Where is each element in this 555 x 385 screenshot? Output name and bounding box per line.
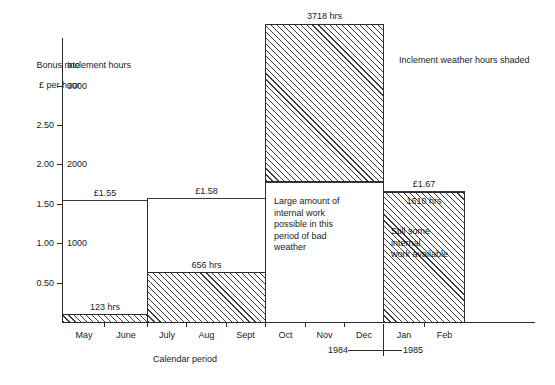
bar-july-sept-hours-label: 656 hrs (147, 260, 266, 271)
annotation-line-4: period of bad (274, 231, 340, 243)
y-tick-label-250: 2.50 (8, 120, 54, 131)
annotation-line-3: work available (391, 249, 448, 261)
x-label-jan: Jan (384, 330, 424, 341)
bonus-rate-inclement-hours-chart: Bonus rate £ per hour Inclement hours 2.… (0, 0, 555, 385)
bar-oct-dec-rate-line (265, 182, 384, 183)
annotation-line-1: Still some (391, 226, 448, 238)
y-tick-250 (57, 125, 62, 126)
legend-note: Inclement weather hours shaded (399, 55, 530, 66)
bar-may-june-hours-hatch (62, 314, 148, 323)
x-label-may: May (63, 330, 105, 341)
bar-july-sept-rate-label: £1.58 (147, 186, 266, 197)
x-label-sept: Sept (226, 330, 265, 341)
y-tick-label-050: 0.50 (8, 278, 54, 289)
bar-july-sept-hours-hatch (147, 272, 266, 323)
y-tick-300 (57, 86, 62, 87)
x-axis-title: Calendar period (105, 354, 265, 365)
annotation-line-1: Large amount of (274, 196, 340, 208)
bar-july-sept-rate-line (147, 198, 266, 199)
y-tick-label-3000: 3000 (67, 81, 87, 92)
x-label-aug: Aug (187, 330, 226, 341)
bar-may-june-hours-label: 123 hrs (62, 302, 148, 313)
annotation-line-2: internal work (274, 208, 340, 220)
bar-jan-feb-hours-label: 1610 hrs (383, 196, 465, 207)
annotation-line-5: weather (274, 242, 340, 254)
bar-may-june-rate-line (62, 200, 148, 201)
year-divider-line (383, 324, 384, 356)
y-tick-label-2000: 2000 (67, 159, 87, 170)
year-rule-1984 (348, 350, 383, 351)
year-label-1984: 1984 (310, 345, 348, 356)
x-label-dec: Dec (345, 330, 383, 341)
bar-oct-dec-annotation: Large amount of internal work possible i… (274, 196, 340, 254)
y-tick-label-200: 2.00 (8, 159, 54, 170)
bar-oct-dec-hours-label: 3718 hrs (265, 11, 384, 22)
year-label-1985: 1985 (403, 345, 423, 356)
y-tick-label-100: 1.00 (8, 238, 54, 249)
x-label-june: June (105, 330, 147, 341)
x-label-july: July (148, 330, 186, 341)
x-label-oct: Oct (266, 330, 305, 341)
bar-jan-feb-annotation: Still some internal work available (391, 226, 448, 261)
year-rule-1985 (384, 350, 402, 351)
y-tick-label-150: 1.50 (8, 199, 54, 210)
annotation-line-2: internal (391, 238, 448, 250)
x-label-nov: Nov (305, 330, 344, 341)
bar-jan-feb-rate-label: £1.67 (383, 179, 465, 190)
bar-may-june-rate-label: £1.55 (62, 188, 148, 199)
annotation-line-3: possible in this (274, 219, 340, 231)
y-tick-200 (57, 164, 62, 165)
right-axis-title: Inclement hours (67, 60, 131, 71)
bar-oct-dec-hours-hatch (265, 24, 384, 182)
x-label-feb: Feb (424, 330, 465, 341)
